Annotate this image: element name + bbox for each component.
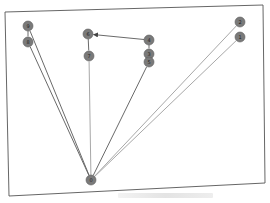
node-label: 0: [89, 177, 92, 183]
edge-0-to-8: [30, 47, 89, 175]
edge-6-to-7: [88, 39, 89, 51]
edge-0-to-2: [94, 26, 236, 176]
edge-0-to-1: [95, 41, 236, 177]
node-9: 9: [23, 21, 33, 31]
caption-placeholder: [118, 193, 213, 198]
node-label: 6: [86, 31, 89, 37]
node-label: 2: [238, 19, 241, 25]
node-layer: 0123456789: [23, 17, 245, 185]
edge-0-to-7: [89, 61, 91, 175]
node-label: 4: [147, 37, 150, 43]
node-label: 9: [26, 23, 29, 29]
node-6: 6: [83, 29, 93, 39]
graph-canvas: 0123456789: [0, 0, 270, 203]
node-label: 5: [147, 59, 150, 65]
node-label: 3: [147, 51, 150, 57]
node-4: 4: [144, 35, 154, 45]
node-7: 7: [84, 51, 94, 61]
node-label: 7: [87, 53, 90, 59]
node-8: 8: [23, 37, 33, 47]
edge-0-to-9: [30, 31, 89, 175]
node-5: 5: [144, 57, 154, 67]
node-0: 0: [86, 175, 96, 185]
edge-4-to-6: [93, 35, 144, 40]
plot-frame: [5, 5, 265, 196]
node-2: 2: [235, 17, 245, 27]
edge-layer: [28, 26, 236, 177]
edge-0-to-5: [93, 67, 146, 176]
node-1: 1: [235, 32, 245, 42]
node-label: 8: [26, 39, 29, 45]
node-label: 1: [238, 34, 241, 40]
